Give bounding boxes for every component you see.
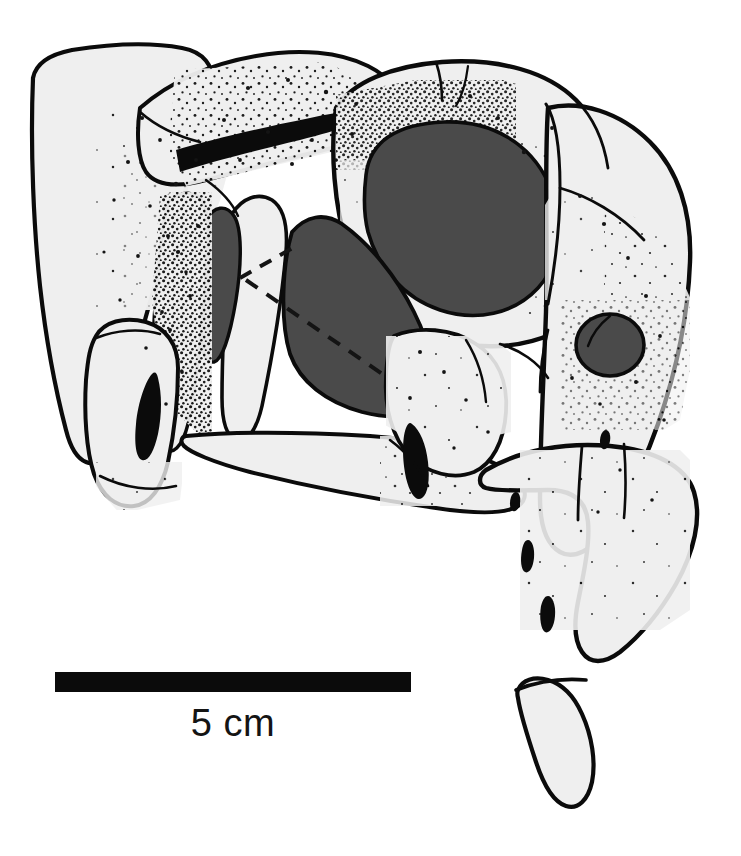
figure-canvas: 5 cm xyxy=(0,0,741,856)
scale-bar-label: 5 cm xyxy=(55,702,411,744)
scale-bar-rule xyxy=(55,672,411,692)
external-naris-opening xyxy=(576,314,644,376)
beak-tip xyxy=(517,678,593,806)
scale-bar: 5 cm xyxy=(55,672,411,744)
